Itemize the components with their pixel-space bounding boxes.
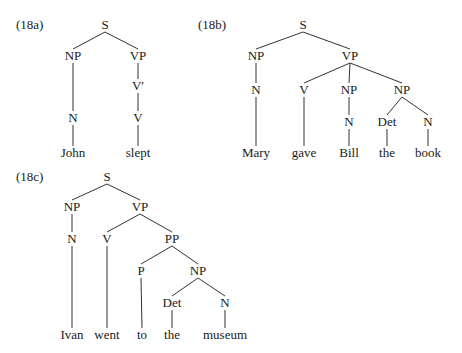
tree-node: V bbox=[102, 232, 111, 246]
tree-node: V bbox=[133, 111, 142, 125]
tree-node: NP bbox=[190, 264, 207, 278]
tree-branch bbox=[172, 246, 198, 264]
example-label: (18b) bbox=[198, 18, 226, 32]
tree-node: Det bbox=[163, 296, 182, 310]
tree-node: V′ bbox=[132, 79, 144, 93]
tree-node: VP bbox=[132, 200, 149, 214]
tree-branch bbox=[402, 97, 428, 115]
tree-branch bbox=[198, 278, 225, 296]
tree-node: N bbox=[344, 115, 353, 129]
tree-node: S bbox=[103, 170, 110, 184]
terminal-word: Mary bbox=[242, 146, 270, 160]
terminal-word: Bill bbox=[339, 146, 359, 160]
tree-node: NP bbox=[65, 49, 82, 63]
terminal-word: Ivan bbox=[60, 328, 83, 342]
tree-node: V bbox=[299, 83, 308, 97]
tree-branch bbox=[107, 184, 140, 200]
tree-branch bbox=[105, 32, 138, 49]
terminal-word: to bbox=[137, 328, 147, 342]
terminal-word: went bbox=[94, 328, 119, 342]
tree-node: N bbox=[251, 83, 260, 97]
tree-node: PP bbox=[165, 232, 179, 246]
terminal-word: the bbox=[164, 328, 180, 342]
terminal-word: gave bbox=[292, 146, 317, 160]
tree-node: VP bbox=[342, 49, 359, 63]
terminal-word: book bbox=[415, 146, 441, 160]
tree-node: NP bbox=[341, 83, 358, 97]
tree-branch bbox=[304, 63, 350, 83]
tree-branch bbox=[107, 214, 140, 232]
tree-node: S bbox=[101, 18, 108, 32]
tree-branch bbox=[387, 97, 402, 115]
tree-branch bbox=[349, 63, 350, 83]
terminal-word: John bbox=[61, 146, 86, 160]
tree-node: NP bbox=[64, 200, 81, 214]
tree-node: N bbox=[220, 296, 229, 310]
terminal-word: the bbox=[379, 146, 395, 160]
tree-branch bbox=[172, 278, 198, 296]
tree-node: N bbox=[68, 111, 77, 125]
tree-branch bbox=[72, 184, 107, 200]
tree-branch bbox=[256, 32, 303, 49]
tree-branch bbox=[141, 278, 142, 328]
tree-node: NP bbox=[394, 83, 411, 97]
tree-branch bbox=[141, 246, 172, 264]
tree-node: N bbox=[423, 115, 432, 129]
tree-node: N bbox=[67, 232, 76, 246]
tree-node: VP bbox=[130, 49, 147, 63]
tree-branch bbox=[303, 32, 350, 49]
tree-node: S bbox=[299, 18, 306, 32]
tree-branch bbox=[73, 32, 105, 49]
tree-node: Det bbox=[378, 115, 397, 129]
example-label: (18a) bbox=[16, 18, 43, 32]
tree-branch bbox=[350, 63, 402, 83]
tree-node: P bbox=[137, 264, 144, 278]
example-label: (18c) bbox=[16, 170, 43, 184]
tree-branch bbox=[140, 214, 172, 232]
tree-node: NP bbox=[248, 49, 265, 63]
terminal-word: slept bbox=[126, 146, 151, 160]
terminal-word: museum bbox=[203, 328, 247, 342]
